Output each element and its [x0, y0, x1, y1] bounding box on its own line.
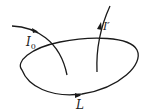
Iprime-arrow-icon [97, 22, 102, 30]
closed-loop-L [20, 38, 138, 95]
label-I0: I0 [25, 35, 36, 51]
diagram-canvas: I0 I′ L [0, 0, 148, 112]
label-L: L [75, 98, 84, 112]
label-Iprime: I′ [102, 20, 110, 33]
